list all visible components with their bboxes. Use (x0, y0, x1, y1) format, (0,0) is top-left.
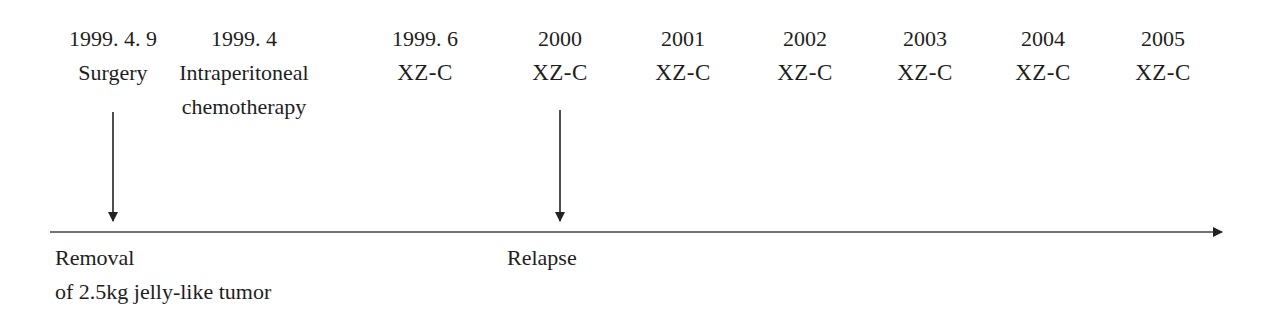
annotation-line1: Relapse (507, 241, 577, 275)
event-label-line2: chemotherapy (144, 90, 344, 124)
relapse-annotation: Relapse (507, 241, 577, 275)
timeline-column-1999-4: 1999. 4 Intraperitoneal chemotherapy (144, 22, 344, 124)
annotation-line2: of 2.5kg jelly-like tumor (55, 275, 271, 309)
annotation-line1: Removal (55, 241, 271, 275)
date-label: 2005 (1083, 22, 1243, 56)
event-label: Intraperitoneal (144, 56, 344, 90)
event-label: XZ-C (1083, 56, 1243, 90)
removal-annotation: Removal of 2.5kg jelly-like tumor (55, 241, 271, 309)
timeline-column-2005: 2005 XZ-C (1083, 22, 1243, 90)
date-label: 1999. 4 (144, 22, 344, 56)
